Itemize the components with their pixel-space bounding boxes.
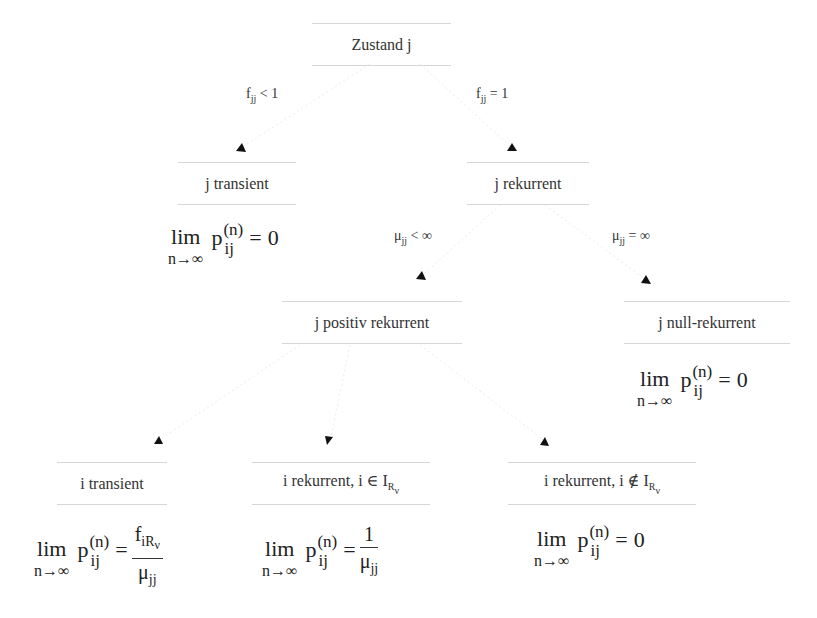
arrowhead-icon <box>507 143 517 151</box>
node-i-rekurrent-in: i rekurrent, i ∈ IRν <box>252 462 430 505</box>
arrowhead-icon <box>540 437 549 446</box>
arrowhead-icon <box>236 143 246 152</box>
edge-root-to-j-transient <box>241 64 370 148</box>
p-term: p(n)ij <box>577 527 609 553</box>
arrowhead-icon <box>325 436 333 445</box>
node-label-sub: Rν <box>388 481 399 492</box>
formula-i-transient: limn→∞p(n)ij=fiRνμjj <box>34 537 163 609</box>
arrowhead-icon <box>416 271 426 280</box>
edge-positiv-to-i-rek-notin <box>420 345 545 441</box>
lim-operator: limn→∞ <box>637 367 672 409</box>
lim-operator: limn→∞ <box>34 537 69 579</box>
p-term: p(n)ij <box>305 537 337 563</box>
node-label: i rekurrent, i ∉ IRν <box>544 471 660 496</box>
lim-operator: limn→∞ <box>168 225 203 267</box>
node-i-rekurrent-notin: i rekurrent, i ∉ IRν <box>508 462 696 505</box>
edge-positiv-to-i-rek-in <box>330 345 350 441</box>
lim-operator: limn→∞ <box>262 537 297 579</box>
edge-positiv-to-i-transient <box>158 345 300 441</box>
node-j-rekurrent: j rekurrent <box>467 162 589 205</box>
formula-rhs: 0 <box>737 367 748 393</box>
formula-rhs: 0 <box>268 225 279 251</box>
edge-rekurrent-to-positiv <box>422 205 500 276</box>
node-label: i rekurrent, i ∈ IRν <box>283 471 399 496</box>
node-label: j null-rekurrent <box>658 314 755 332</box>
node-j-transient: j transient <box>178 162 296 205</box>
node-label-subsub: ν <box>394 485 399 496</box>
edge-label-mu-lt-inf: μjj < ∞ <box>394 228 432 246</box>
node-i-transient: i transient <box>57 462 167 505</box>
arrowhead-icon <box>154 436 163 444</box>
p-term: p(n)ij <box>77 537 109 563</box>
formula-j-null-rekurrent: limn→∞p(n)ij=0 <box>637 367 748 409</box>
node-zustand-j: Zustand j <box>312 23 451 66</box>
node-label: j positiv rekurrent <box>315 314 430 332</box>
node-j-positiv-rekurrent: j positiv rekurrent <box>282 301 462 344</box>
formula-j-transient: limn→∞p(n)ij=0 <box>168 225 279 267</box>
p-term: p(n)ij <box>680 367 712 393</box>
arrowhead-icon <box>641 275 651 284</box>
edge-root-to-j-rekurrent <box>420 64 512 148</box>
node-j-null-rekurrent: j null-rekurrent <box>624 301 790 344</box>
node-label-main: i rekurrent, i ∉ I <box>544 472 649 489</box>
node-label-sub: Rν <box>649 481 660 492</box>
edge-label-fjj-eq-1: fjj = 1 <box>476 86 508 104</box>
edge-label-mu-eq-inf: μjj = ∞ <box>612 228 650 246</box>
fraction: fiRνμjj <box>132 521 163 593</box>
node-label: Zustand j <box>352 36 412 54</box>
node-label: j transient <box>205 175 269 193</box>
formula-i-rekurrent-notin: limn→∞p(n)ij=0 <box>534 527 645 569</box>
node-label-main: i rekurrent, i ∈ I <box>283 472 388 489</box>
fraction: 1μjj <box>360 521 379 582</box>
formula-rhs: 0 <box>634 527 645 553</box>
node-label-subsub: ν <box>655 485 660 496</box>
node-label: j rekurrent <box>494 175 561 193</box>
formula-i-rekurrent-in: limn→∞p(n)ij=1μjj <box>262 537 378 598</box>
lim-operator: limn→∞ <box>534 527 569 569</box>
node-label: i transient <box>80 475 144 493</box>
edge-label-fjj-lt-1: fjj < 1 <box>246 86 278 104</box>
p-term: p(n)ij <box>211 225 243 251</box>
